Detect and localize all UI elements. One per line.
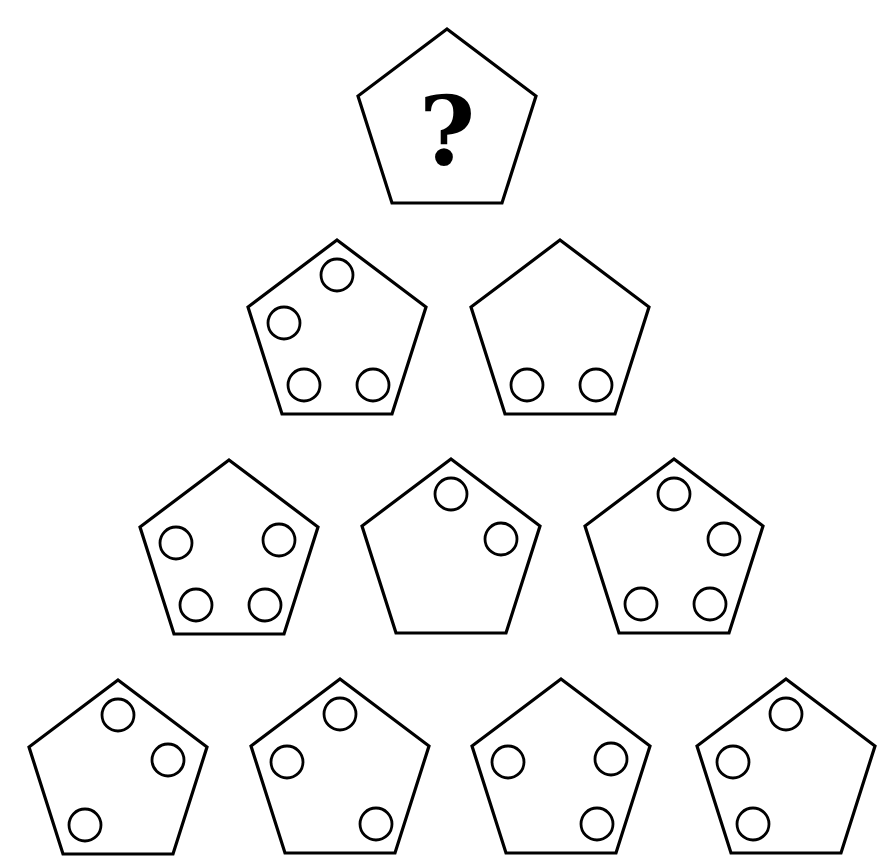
circle-dot-icon [249, 589, 281, 621]
pentagon-tile [28, 678, 208, 858]
circle-dot-icon [324, 698, 356, 730]
circle-dot-icon [152, 744, 184, 776]
pentagon-tile [470, 238, 650, 418]
circle-dot-icon [595, 743, 627, 775]
circle-dot-icon [180, 589, 212, 621]
circle-dot-icon [580, 369, 612, 401]
circle-dot-icon [485, 523, 517, 555]
pentagon-icon [247, 238, 427, 418]
circle-dot-icon [625, 588, 657, 620]
circle-dot-icon [511, 369, 543, 401]
circle-dot-icon [658, 478, 690, 510]
pentagon-icon [471, 677, 651, 857]
pentagon-icon [470, 238, 650, 418]
circle-dot-icon [492, 746, 524, 778]
circle-dot-icon [360, 808, 392, 840]
circle-dot-icon [271, 746, 303, 778]
circle-dot-icon [717, 746, 749, 778]
pentagon-tile [471, 677, 651, 857]
pentagon-icon [361, 457, 541, 637]
pentagon-icon [139, 458, 319, 638]
circle-dot-icon [288, 369, 320, 401]
pentagon-tile [696, 677, 876, 857]
question-mark: ? [419, 75, 475, 188]
pentagon-pyramid-puzzle: ? [0, 0, 893, 868]
pentagon-tile [584, 457, 764, 637]
circle-dot-icon [581, 808, 613, 840]
question-pentagon: ? [357, 27, 537, 207]
circle-dot-icon [321, 259, 353, 291]
circle-dot-icon [737, 808, 769, 840]
circle-dot-icon [694, 588, 726, 620]
circle-dot-icon [69, 809, 101, 841]
pentagon-tile [250, 677, 430, 857]
pentagon-icon [584, 457, 764, 637]
pentagon-icon [28, 678, 208, 858]
circle-dot-icon [435, 478, 467, 510]
circle-dot-icon [268, 307, 300, 339]
circle-dot-icon [770, 698, 802, 730]
pentagon-tile [247, 238, 427, 418]
circle-dot-icon [708, 523, 740, 555]
circle-dot-icon [357, 369, 389, 401]
circle-dot-icon [102, 699, 134, 731]
pentagon-icon [696, 677, 876, 857]
circle-dot-icon [263, 524, 295, 556]
pentagon-icon [250, 677, 430, 857]
pentagon-tile [361, 457, 541, 637]
pentagon-icon: ? [357, 27, 537, 207]
circle-dot-icon [160, 527, 192, 559]
pentagon-tile [139, 458, 319, 638]
pentagon-outline [471, 240, 649, 414]
